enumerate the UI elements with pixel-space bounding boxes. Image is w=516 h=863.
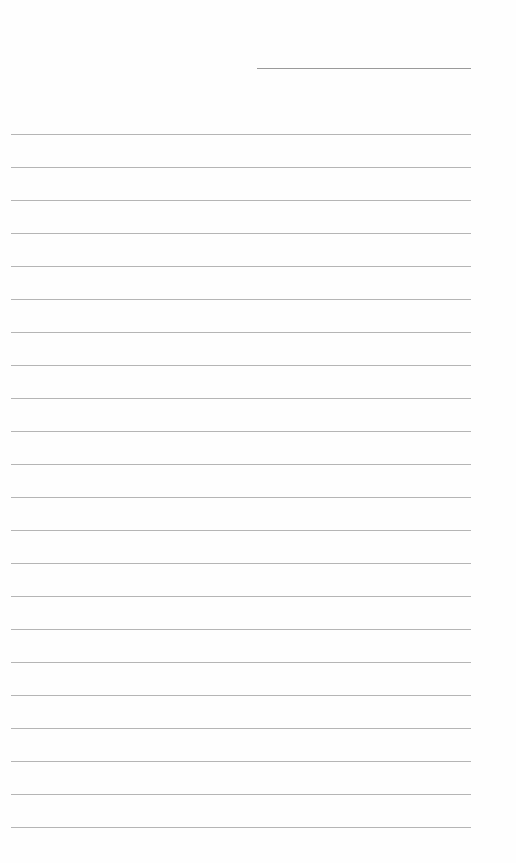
writing-line — [11, 266, 471, 267]
writing-line — [11, 629, 471, 630]
writing-line — [11, 233, 471, 234]
writing-line — [11, 497, 471, 498]
writing-line — [11, 563, 471, 564]
lined-page — [0, 0, 516, 863]
writing-line — [11, 365, 471, 366]
writing-line — [11, 530, 471, 531]
writing-line — [11, 431, 471, 432]
writing-line — [11, 464, 471, 465]
writing-line — [11, 794, 471, 795]
writing-line — [11, 728, 471, 729]
writing-line — [11, 827, 471, 828]
writing-line — [11, 596, 471, 597]
writing-line — [11, 299, 471, 300]
writing-lines — [11, 0, 471, 863]
writing-line — [11, 662, 471, 663]
writing-line — [11, 167, 471, 168]
writing-line — [11, 695, 471, 696]
writing-line — [11, 761, 471, 762]
writing-line — [11, 398, 471, 399]
writing-line — [11, 200, 471, 201]
writing-line — [11, 134, 471, 135]
writing-line — [11, 332, 471, 333]
